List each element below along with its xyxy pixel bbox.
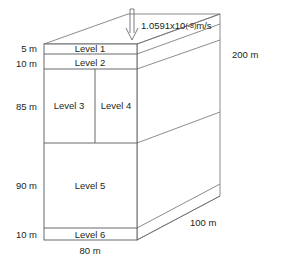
level-5-label: Level 5 — [75, 180, 106, 191]
flux-exponent: (-8) — [185, 22, 196, 30]
left-dim-85m: 85 m — [16, 101, 37, 112]
front-face-outline — [44, 44, 137, 240]
width-dimension-label: 80 m — [79, 245, 100, 256]
left-dim-90m: 90 m — [16, 180, 37, 191]
level-1-label: Level 1 — [75, 43, 106, 54]
flux-mantissa: 1.0591x10 — [141, 20, 185, 31]
height-dimension-label: 200 m — [232, 49, 258, 60]
soil-column-diagram: Level 1 Level 2 Level 3 Level 4 Level 5 … — [0, 0, 298, 266]
left-dim-10m-top: 10 m — [16, 58, 37, 69]
level-3-label: Level 3 — [54, 100, 85, 111]
flux-label: 1.0591x10(-8)m/s — [141, 20, 212, 31]
left-dim-5m: 5 m — [21, 43, 37, 54]
flux-unit: m/s — [196, 20, 212, 31]
depth-dimension-label: 100 m — [190, 217, 216, 228]
right-face-line-2 — [137, 40, 220, 69]
front-face — [44, 44, 137, 240]
level-6-label: Level 6 — [75, 229, 106, 240]
level-4-label: Level 4 — [101, 100, 132, 111]
left-dim-10m-bottom: 10 m — [16, 229, 37, 240]
arrow-head — [126, 28, 138, 40]
level-2-label: Level 2 — [75, 57, 106, 68]
right-side-face — [137, 14, 220, 240]
right-face-line-3 — [137, 112, 220, 143]
